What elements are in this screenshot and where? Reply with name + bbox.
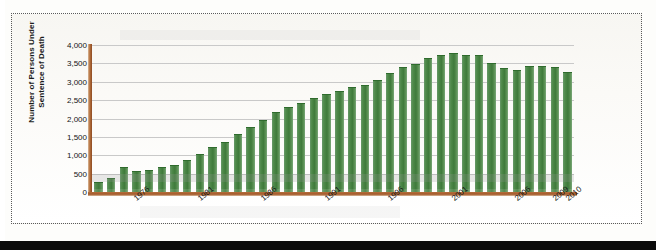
bar: [246, 127, 254, 192]
bar: [107, 178, 115, 192]
bar: [183, 160, 191, 192]
bar: [563, 72, 571, 192]
bar: [487, 63, 495, 192]
bar: [424, 58, 432, 192]
y-axis-tick-label: 2,000: [53, 114, 87, 123]
bar: [411, 64, 419, 192]
bar: [513, 70, 521, 192]
bar: [94, 182, 102, 192]
y-axis-title: Number of Persons Under Sentence of Deat…: [27, 2, 47, 142]
bar: [310, 98, 318, 192]
bar: [196, 154, 204, 192]
bar: [170, 165, 178, 192]
bar: [399, 67, 407, 192]
bar: [538, 66, 546, 192]
bar: [449, 53, 457, 192]
bar: [234, 134, 242, 192]
bar: [386, 73, 394, 192]
bar-series: [92, 45, 574, 192]
y-axis-tick-label: 1,000: [53, 151, 87, 160]
bar: [348, 87, 356, 192]
bar: [272, 112, 280, 192]
page-left-margin: [0, 0, 5, 241]
bar: [437, 55, 445, 192]
y-axis-tick-label: 2,500: [53, 96, 87, 105]
bar: [462, 55, 470, 192]
y-axis-line: [88, 44, 92, 194]
y-axis-tick-label: 3,000: [53, 77, 87, 86]
y-axis-tick-label: 4,000: [53, 41, 87, 50]
figure-container: Number of Persons Under Sentence of Deat…: [0, 0, 656, 250]
bar: [284, 107, 292, 192]
y-axis-tick-label: 0: [53, 188, 87, 197]
y-axis-tick-label: 500: [53, 169, 87, 178]
bar: [551, 67, 559, 192]
page-bottom-strip: [0, 241, 656, 250]
bar: [158, 167, 166, 192]
bar: [297, 103, 305, 192]
bar: [500, 68, 508, 192]
y-axis-tick-label: 1,500: [53, 132, 87, 141]
bar: [475, 55, 483, 192]
bar: [335, 91, 343, 192]
bar: [322, 94, 330, 192]
bar: [373, 80, 381, 192]
bar: [525, 66, 533, 192]
y-axis-tick-label: 3,500: [53, 59, 87, 68]
bar: [259, 120, 267, 192]
bar: [221, 142, 229, 192]
bar: [361, 85, 369, 192]
bar: [120, 167, 128, 192]
